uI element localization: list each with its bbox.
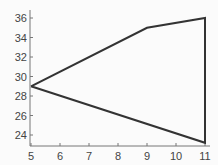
y-tick-label: 26	[15, 110, 27, 122]
x-tick-label: 5	[28, 150, 34, 162]
x-tick-label: 8	[115, 150, 121, 162]
line-chart: 24262830323436 567891011	[0, 0, 218, 165]
axes	[30, 10, 210, 146]
y-tick-label: 34	[15, 32, 27, 44]
x-tick-label: 7	[86, 150, 92, 162]
y-tick-label: 24	[15, 129, 27, 141]
x-tick-label: 6	[57, 150, 63, 162]
y-tick-label: 36	[15, 12, 27, 24]
y-tick-label: 32	[15, 51, 27, 63]
data-series-line	[31, 18, 205, 143]
x-tick-label: 11	[199, 150, 210, 162]
y-tick-label: 28	[15, 90, 27, 102]
x-tick-label: 9	[144, 150, 150, 162]
y-tick-label: 30	[15, 71, 27, 83]
x-tick-label: 10	[170, 150, 182, 162]
